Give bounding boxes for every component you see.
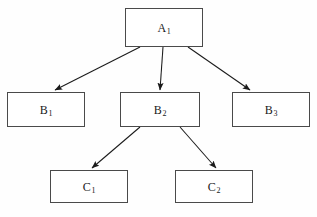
hierarchy-diagram: A1 B1 B2 B3 C1 C2: [0, 0, 317, 217]
node-a1-label: A1: [157, 22, 170, 34]
node-b2[interactable]: B2: [120, 92, 200, 127]
node-c1-label: C1: [83, 181, 95, 193]
node-b2-label: B2: [154, 104, 166, 116]
node-b3-label: B3: [265, 104, 277, 116]
edge-b2-c1: [92, 127, 140, 168]
node-a1[interactable]: A1: [125, 8, 203, 47]
node-b3[interactable]: B3: [232, 92, 310, 127]
node-c1[interactable]: C1: [50, 170, 128, 203]
edge-a1-b3: [188, 47, 250, 90]
edge-a1-b1: [55, 47, 140, 90]
node-c2-label: C2: [208, 181, 220, 193]
node-b1[interactable]: B1: [7, 92, 85, 127]
edge-a1-b2: [160, 47, 163, 90]
node-c2[interactable]: C2: [175, 170, 253, 203]
node-b1-label: B1: [40, 104, 52, 116]
edge-b2-c2: [180, 127, 216, 168]
